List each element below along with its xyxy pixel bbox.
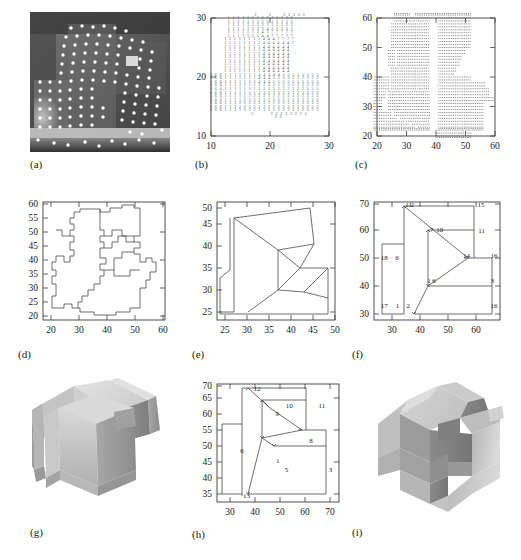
sample-dot	[441, 130, 442, 131]
sample-dot	[459, 32, 460, 33]
sample-dot	[417, 44, 418, 45]
sample-dot	[439, 133, 440, 134]
sample-dot	[416, 94, 417, 95]
sample-dot	[448, 80, 449, 81]
sample-dot	[466, 88, 467, 89]
sample-dot	[490, 97, 491, 98]
sample-dot	[470, 77, 471, 78]
sample-dot	[482, 85, 483, 86]
panel-h-ytick-4: 55	[203, 425, 213, 435]
panel-c-plot: 20 30 40 50 60 20 30 40 50 60	[355, 12, 505, 157]
panel-f-face-graph: 11215710111861614613171216	[381, 201, 498, 315]
sample-dot	[400, 85, 401, 86]
panel-f-ytick-1: 40	[360, 281, 370, 291]
sample-dot	[448, 35, 449, 36]
sample-dot	[426, 13, 427, 14]
sample-dot	[481, 115, 482, 116]
sample-dot	[448, 137, 449, 138]
vertex-label: 1	[427, 277, 431, 285]
sample-dot	[415, 71, 416, 72]
sample-dot	[417, 35, 418, 36]
sample-dot	[374, 128, 375, 129]
sample-dot	[406, 50, 407, 51]
sample-dot	[448, 82, 449, 83]
sample-dot	[404, 118, 405, 119]
sample-dot	[413, 85, 414, 86]
vertex-label: 17	[381, 302, 389, 310]
sample-dot	[402, 18, 403, 19]
panel-b: 10 20 30 10 20 30 3333333113333333333331…	[195, 12, 335, 157]
sample-dot	[457, 18, 458, 19]
sample-dot	[442, 97, 443, 98]
sample-dot	[388, 59, 389, 60]
sample-dot	[405, 59, 406, 60]
sample-dot	[419, 130, 420, 131]
sample-dot	[427, 18, 428, 19]
sample-dot	[447, 133, 448, 134]
sample-dot	[401, 106, 402, 107]
sample-dot	[396, 127, 397, 128]
sample-dot	[383, 88, 384, 89]
sample-dot	[386, 128, 387, 129]
sample-dot	[448, 59, 449, 60]
sample-dot	[440, 80, 441, 81]
sample-dot	[400, 35, 401, 36]
sample-dot	[392, 59, 393, 60]
sample-dot	[448, 136, 449, 137]
sample-dot	[439, 74, 440, 75]
sample-dot	[396, 109, 397, 110]
sample-dot	[419, 94, 420, 95]
sample-dot	[412, 121, 413, 122]
sample-dot	[410, 94, 411, 95]
sample-dot	[401, 65, 402, 66]
sample-dot	[466, 85, 467, 86]
sample-dot	[374, 124, 375, 125]
sample-dot	[477, 103, 478, 104]
sample-dot	[413, 21, 414, 22]
vertex-label: 3	[329, 466, 333, 474]
sample-dot	[451, 74, 452, 75]
sample-dot	[448, 97, 449, 98]
sample-dot	[419, 124, 420, 125]
sample-dot	[396, 112, 397, 113]
sample-dot	[405, 130, 406, 131]
sample-dot	[386, 115, 387, 116]
sample-dot	[479, 82, 480, 83]
sample-dot	[444, 62, 445, 63]
surface-type-code: 1	[224, 107, 226, 112]
sample-dot	[427, 112, 428, 113]
sample-dot	[475, 124, 476, 125]
sample-dot	[401, 97, 402, 98]
sample-dot	[453, 103, 454, 104]
sample-dot	[446, 128, 447, 129]
sample-dot	[442, 62, 443, 63]
sample-dot	[412, 124, 413, 125]
sample-dot	[404, 47, 405, 48]
sample-dot	[428, 44, 429, 45]
sample-dot	[477, 91, 478, 92]
sample-dot	[377, 103, 378, 104]
sample-dot	[395, 85, 396, 86]
sample-dot	[435, 15, 436, 16]
sample-dot	[394, 109, 395, 110]
sample-dot	[462, 41, 463, 42]
sample-dot	[479, 121, 480, 122]
sample-dot	[451, 59, 452, 60]
sample-dot	[408, 29, 409, 30]
sample-dot	[468, 100, 469, 101]
sample-dot	[399, 88, 400, 89]
sample-dot	[446, 41, 447, 42]
sample-dot	[388, 53, 389, 54]
sample-dot	[390, 127, 391, 128]
sample-dot	[417, 62, 418, 63]
sample-dot	[423, 124, 424, 125]
sample-dot	[393, 71, 394, 72]
sample-dot	[424, 44, 425, 45]
sample-dot	[439, 29, 440, 30]
sample-dot	[453, 65, 454, 66]
sample-dot	[410, 127, 411, 128]
sample-dot	[440, 53, 441, 54]
sample-dot	[425, 128, 426, 129]
sample-dot	[449, 106, 450, 107]
sample-dot	[406, 121, 407, 122]
